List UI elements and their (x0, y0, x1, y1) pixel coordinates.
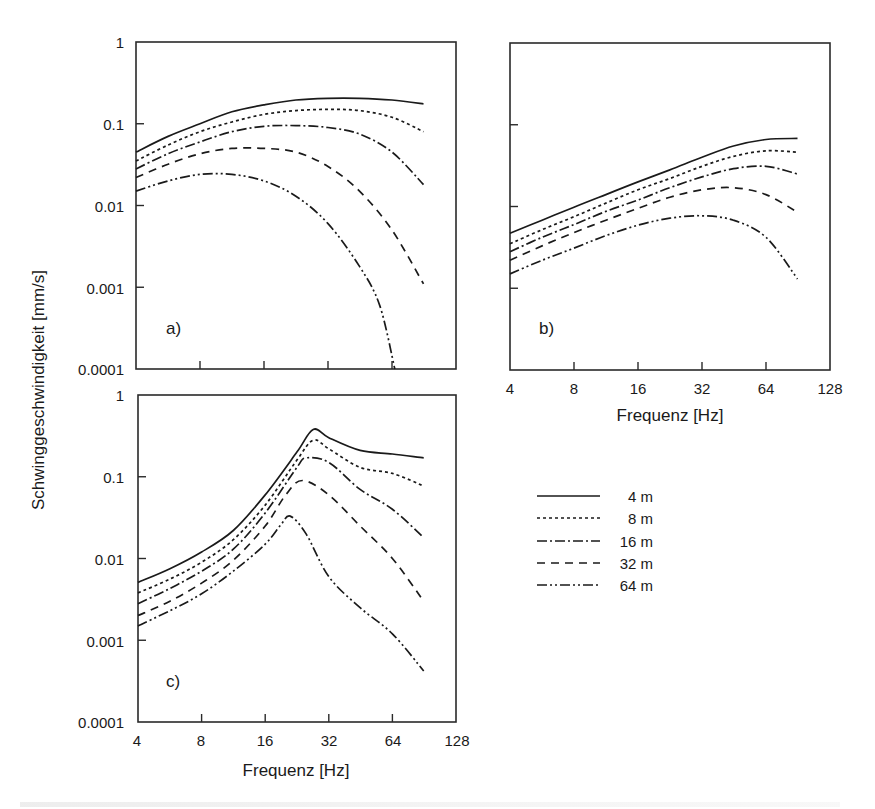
panel-c-x-axis-title: Frequenz [Hz] (243, 761, 350, 780)
curve-16m (138, 458, 424, 604)
legend-item: 4 m (537, 488, 653, 505)
y-axis-title: Schwinggeschwindigkeit [mm/s] (29, 270, 48, 510)
x-tick-label: 32 (321, 732, 338, 749)
legend: 4 m 8 m 16 m 32 m 64 m (537, 488, 653, 594)
y-tick-label: 0.01 (95, 551, 124, 568)
panel-a-label: a) (166, 319, 181, 338)
panel-c: 1 0.1 0.01 0.001 0.0001 4 8 16 32 64 128… (78, 387, 469, 780)
panel-b-frame (510, 43, 830, 370)
x-tick-label: 128 (817, 380, 842, 397)
panel-a: 1 0.1 0.01 0.001 0.0001 a) (78, 34, 456, 378)
curve-4m (138, 429, 424, 582)
caption-bleed-through (20, 802, 840, 807)
curve-32m (510, 187, 798, 260)
panel-b-y-ticks (510, 125, 518, 289)
panel-b-x-axis-title: Frequenz [Hz] (617, 406, 724, 425)
legend-label: 16 m (620, 533, 653, 550)
x-tick-label: 128 (444, 732, 469, 749)
x-tick-label: 32 (694, 380, 711, 397)
y-tick-label: 0.0001 (78, 714, 124, 731)
legend-label: 32 m (620, 555, 653, 572)
legend-item: 32 m (537, 555, 653, 572)
y-tick-label: 0.1 (103, 116, 124, 133)
y-tick-label: 0.1 (103, 469, 124, 486)
y-tick-label: 1 (116, 34, 124, 51)
curve-16m (510, 166, 798, 252)
panel-c-label: c) (166, 672, 180, 691)
x-tick-label: 4 (506, 380, 514, 397)
x-tick-label: 64 (385, 732, 402, 749)
curve-64m (510, 216, 798, 279)
curve-8m (138, 440, 424, 593)
curve-32m (138, 481, 424, 616)
curve-64m (138, 516, 424, 671)
legend-label: 8 m (628, 510, 653, 527)
figure: Schwinggeschwindigkeit [mm/s] 1 0.1 0.01… (0, 0, 875, 809)
y-tick-label: 1 (116, 387, 124, 404)
x-tick-label: 4 (133, 732, 141, 749)
legend-item: 8 m (537, 510, 653, 527)
curve-32m (136, 148, 424, 284)
curve-16m (136, 125, 424, 184)
curve-4m (510, 138, 798, 233)
panel-a-frame (136, 42, 456, 369)
panel-b: 4 8 16 32 64 128 Frequenz [Hz] b) (506, 43, 843, 425)
panel-b-label: b) (539, 319, 554, 338)
panel-b-curves (510, 138, 798, 279)
panel-c-x-ticks (202, 714, 393, 722)
curve-64m (136, 174, 395, 369)
legend-label: 4 m (628, 488, 653, 505)
legend-item: 16 m (537, 533, 653, 550)
x-tick-label: 16 (257, 732, 274, 749)
y-tick-label: 0.0001 (78, 361, 124, 378)
curve-8m (136, 109, 424, 161)
legend-item: 64 m (537, 577, 653, 594)
panel-a-x-ticks (200, 361, 392, 369)
x-tick-label: 8 (570, 380, 578, 397)
y-tick-label: 0.001 (86, 633, 124, 650)
y-tick-label: 0.01 (95, 198, 124, 215)
legend-label: 64 m (620, 577, 653, 594)
x-tick-label: 64 (758, 380, 775, 397)
x-tick-label: 16 (630, 380, 647, 397)
y-tick-label: 0.001 (86, 280, 124, 297)
panel-c-curves (138, 429, 424, 671)
x-tick-label: 8 (197, 732, 205, 749)
panel-c-frame (138, 395, 456, 722)
panel-b-x-ticks (574, 362, 766, 370)
